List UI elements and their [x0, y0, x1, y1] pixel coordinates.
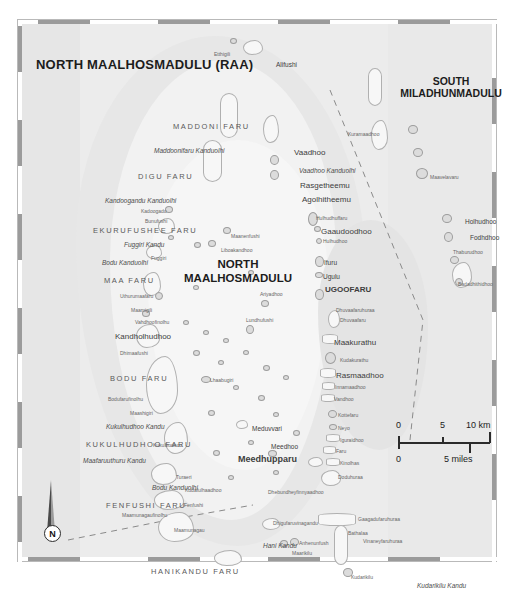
island-shape-meedhupparu: [308, 457, 323, 467]
atoll-center-label: NORTH MAALHOSMADULU: [168, 258, 308, 286]
lagoon-dot: [228, 475, 234, 480]
map-label: Turaeri: [176, 475, 192, 480]
map-label: Liboakandhoo: [221, 248, 252, 253]
map-label: Kudarikilu: [351, 575, 373, 580]
island-shape-lagoon-dot-a: [194, 242, 201, 248]
island-shape-turaeri: [151, 463, 177, 485]
scale-tick-km-mid: [442, 437, 444, 443]
island-shape-north-east: [368, 68, 382, 106]
lagoon-dot: [248, 440, 254, 445]
map-label: Maavelavaru: [430, 175, 459, 180]
island-shape-holhudhoo: [442, 214, 452, 223]
island-shape-hulhudhoo: [316, 238, 322, 244]
map-label: Anhenunfush: [299, 541, 328, 546]
map-label: Kandholhudhoo: [115, 333, 171, 341]
map-label: Maakurathu: [334, 339, 376, 347]
lagoon-dot: [218, 360, 224, 365]
map-label: Maddoonifaru Kanduolhi: [154, 148, 224, 155]
map-label: Ifuru: [324, 260, 337, 267]
map-label: Kudarikilu Kandu: [417, 583, 466, 590]
lagoon-dot: [273, 412, 279, 417]
island-shape-innamaadhoo: [322, 382, 335, 390]
island-shape-agolhitheemu: [270, 170, 279, 180]
map-label: Kudafulhaadhoo: [185, 488, 221, 493]
lagoon-dot: [168, 235, 174, 240]
island-shape-etthigili: [230, 38, 237, 44]
map-label: Thaburudhoo: [453, 250, 483, 255]
map-label: MADDONI FARU: [173, 123, 250, 131]
lagoon-dot: [243, 350, 249, 355]
scale-tick-km-right: [489, 432, 491, 443]
island-shape-faru: [323, 446, 336, 454]
island-shape-vandhoo: [321, 394, 335, 402]
map-label: Maamigili: [131, 308, 152, 313]
island-shape-ne-dot-b: [413, 148, 423, 157]
map-label: Fuggiri Kandu: [124, 242, 164, 249]
map-label: Vandhoo: [334, 397, 354, 402]
map-label: Maarikilu: [292, 551, 312, 556]
atoll-center-line2: MAALHOSMADULU: [184, 272, 292, 284]
lagoon-dot: [213, 450, 220, 456]
island-shape-gaagadufaruhuraa: [318, 513, 356, 526]
map-label: Fenfushi: [184, 503, 203, 508]
map-label: FENFUSHI FARU: [106, 502, 186, 510]
island-shape-neyo: [329, 424, 337, 430]
island-shape-gaaudoodhoo: [314, 226, 321, 232]
map-label: BODU FARU: [110, 375, 168, 383]
island-shape-meduvvari: [236, 420, 248, 429]
map-label: Maanenfushi: [231, 234, 260, 239]
lagoon-dot: [208, 410, 215, 416]
map-label: Kinolhas: [340, 461, 359, 466]
map-label: Badadhithidhoo: [458, 282, 493, 287]
lagoon-dot: [293, 430, 300, 436]
map-label: Kukulhudhoo Kandu: [106, 424, 165, 431]
island-shape-rasgetheemu: [270, 155, 279, 165]
map-label: Kandoogandu Kanduolhi: [105, 198, 176, 205]
island-shape-kudakurathu: [325, 352, 336, 364]
map-frame: NORTH MAALHOSMADULU (RAA) SOUTH MILADHUN…: [17, 19, 497, 562]
scale-km-max: 10 km: [466, 420, 491, 430]
lagoon-dot: [263, 365, 270, 371]
map-label: Uthurumaafaru: [120, 294, 153, 299]
map-label: Vaadhoo Kanduolhi: [299, 168, 356, 175]
lagoon-dot: [223, 338, 229, 343]
map-label: Fodhdhoo: [470, 235, 499, 242]
island-shape-maddonifaru: [220, 93, 238, 138]
lagoon-dot: [258, 395, 265, 401]
map-label: Bodufarufinolhu: [108, 397, 143, 402]
map-label: Kudakurathu: [340, 358, 368, 363]
map-label: Kuramaadhoo: [348, 132, 379, 137]
map-label: Hulhudhoo: [323, 239, 347, 244]
map-label: Maamunagaufinolhu: [122, 513, 167, 518]
lagoon-dot: [233, 385, 239, 390]
north-letter: N: [49, 529, 56, 539]
map-label: Kukulhudhoo: [153, 443, 182, 448]
map-label: Gaaudoodhoo: [321, 228, 372, 236]
north-letter-badge: N: [44, 525, 61, 542]
atoll-center-line1: NORTH: [218, 258, 259, 270]
island-shape-kottefaru: [328, 410, 337, 418]
island-shape-iguraidhoo: [326, 434, 340, 442]
island-shape-maanenfushi: [223, 227, 231, 234]
map-label: Vinaneyfaruhuraa: [363, 539, 402, 544]
map-label: Bodu Kanduolhi: [102, 260, 148, 267]
island-shape-bathalaa: [334, 525, 348, 565]
map-label: Etthigili: [214, 52, 230, 57]
lagoon-dot: [283, 375, 289, 380]
map-label: DIGU FARU: [138, 173, 193, 181]
scale-mi-zero: 0: [396, 454, 401, 464]
neighbour-atoll-line1: SOUTH: [433, 75, 470, 87]
island-shape-ne-dot-a: [408, 125, 418, 134]
map-label: Hulhudhuffaru: [316, 216, 347, 221]
map-label: MAA FARU: [104, 277, 155, 285]
capital-label: Meedhupparu: [238, 455, 297, 464]
scale-mi-max: 5 miles: [444, 454, 473, 464]
scale-tick-left: [398, 436, 400, 449]
lagoon-dot: [193, 285, 199, 290]
scale-axis: [398, 442, 490, 444]
island-shape-ifuru: [315, 256, 324, 267]
scale-km-zero: 0: [396, 420, 401, 430]
map-label: Kottefaru: [338, 413, 358, 418]
map-label: Lundhufushi: [246, 318, 273, 323]
island-shape-fodhdhoo: [444, 232, 453, 242]
